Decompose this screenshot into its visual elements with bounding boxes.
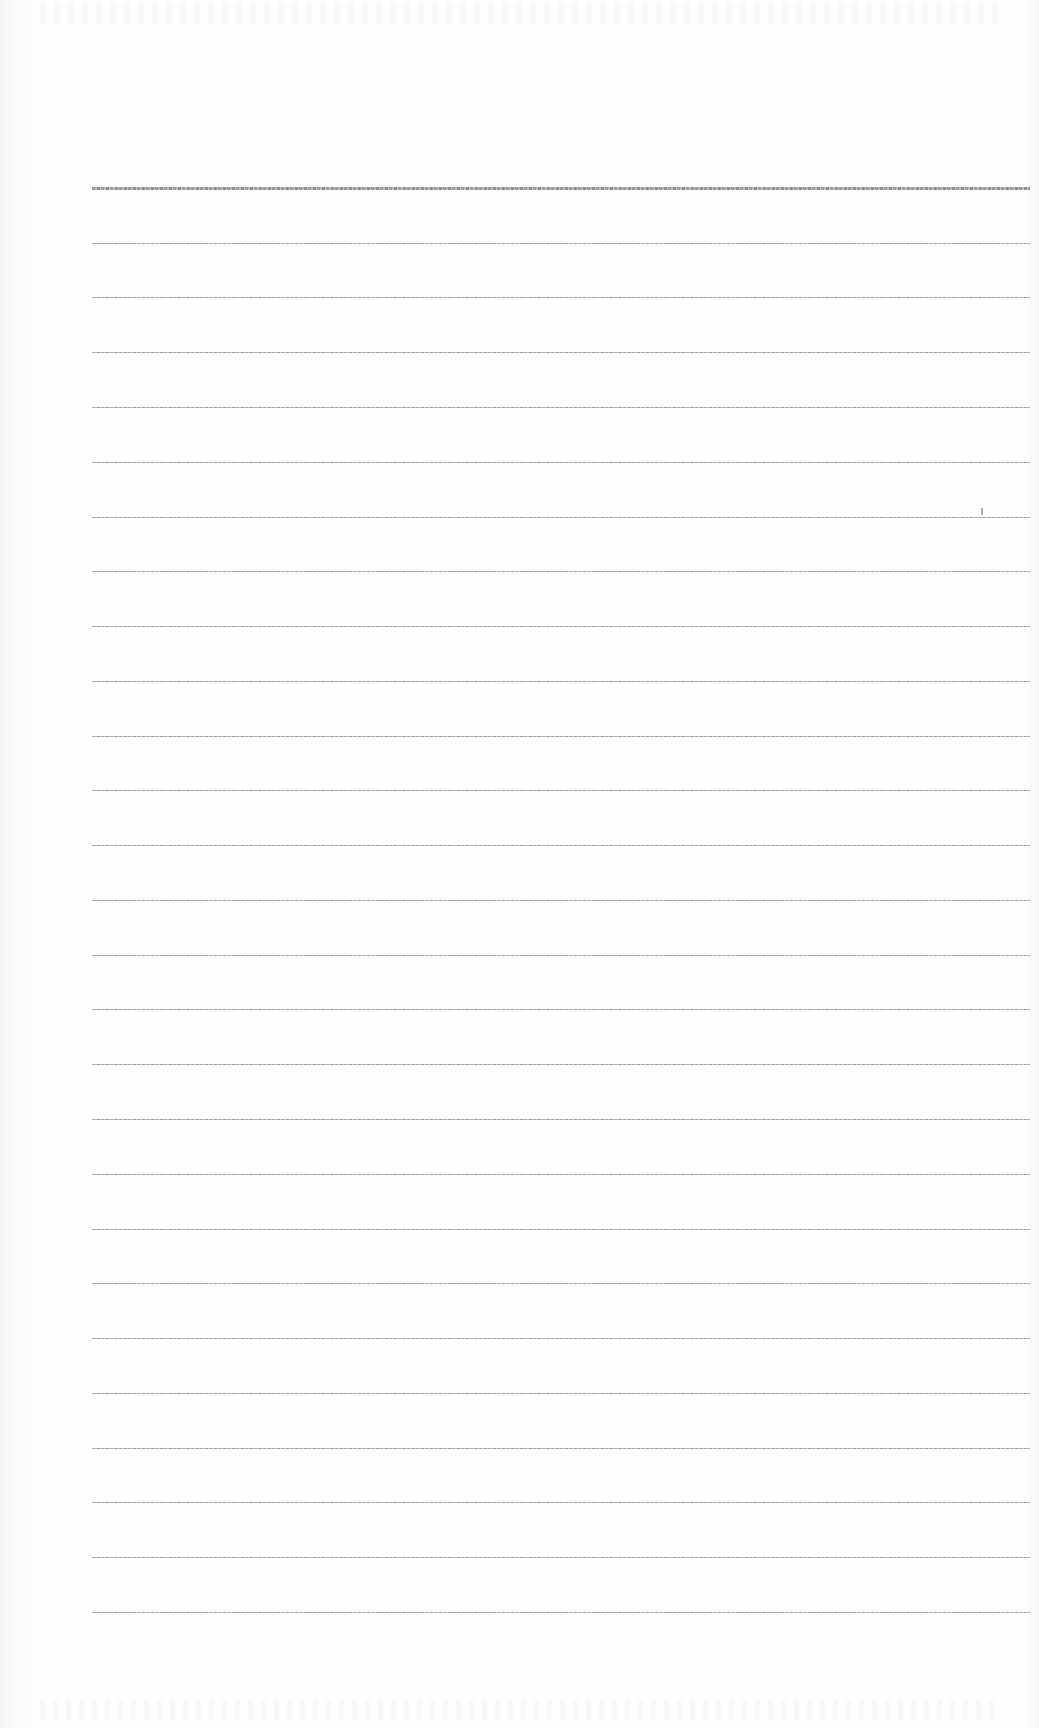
lined-paper-sheet [0, 0, 1039, 1728]
ruled-line [92, 571, 1030, 572]
ruled-line [92, 407, 1030, 408]
ruled-line [92, 243, 1030, 244]
ruled-line [92, 1557, 1030, 1558]
ruled-line [92, 1283, 1030, 1284]
ruled-line [92, 626, 1030, 627]
ruled-line [92, 1393, 1030, 1394]
ruled-line [92, 297, 1030, 298]
scan-bleed-through-top [40, 2, 1000, 24]
ruled-line [92, 1448, 1030, 1449]
ruled-line [92, 1064, 1030, 1065]
ruled-line [92, 462, 1030, 463]
ruled-line [92, 736, 1030, 737]
dust-speck [981, 508, 983, 515]
scan-bleed-through-bottom [40, 1700, 1000, 1720]
ruled-line [92, 790, 1030, 791]
ruled-line [92, 517, 1030, 518]
ruled-line [92, 955, 1030, 956]
ruled-line [92, 1174, 1030, 1175]
ruled-line [92, 1502, 1030, 1503]
ruled-line [92, 1009, 1030, 1010]
ruled-line [92, 352, 1030, 353]
ruled-line [92, 900, 1030, 901]
ruled-line [92, 1338, 1030, 1339]
ruled-line [92, 1229, 1030, 1230]
ruled-line [92, 681, 1030, 682]
ruled-line [92, 187, 1030, 190]
ruled-line [92, 1612, 1030, 1613]
ruled-line [92, 845, 1030, 846]
ruled-line [92, 1119, 1030, 1120]
